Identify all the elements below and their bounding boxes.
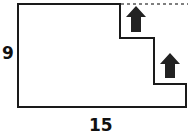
arrow-up-icon-upper — [126, 6, 146, 32]
arrow-up-icon-lower — [160, 53, 180, 78]
shape-outline — [18, 4, 186, 107]
height-label: 9 — [2, 45, 14, 62]
width-label: 15 — [89, 117, 113, 134]
